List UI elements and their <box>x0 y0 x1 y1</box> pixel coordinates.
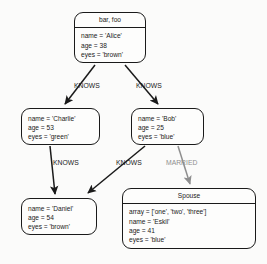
property-row: name = 'Eskil' <box>129 217 255 226</box>
property-row: name = 'Charlie' <box>28 114 99 123</box>
node-eskil-properties: array = ['one', 'two', 'three'] name = '… <box>123 204 255 247</box>
node-alice[interactable]: bar, foo name = 'Alice' age = 38 eyes = … <box>74 12 146 63</box>
property-row: name = 'Bob' <box>138 114 203 123</box>
property-row: eyes = 'brown' <box>28 222 96 231</box>
property-row: name = 'Alice' <box>81 31 145 40</box>
property-row: eyes = 'blue' <box>129 235 255 244</box>
property-row: eyes = 'brown' <box>81 50 145 59</box>
property-row: eyes = 'green' <box>28 132 99 141</box>
property-row: age = 54 <box>28 213 96 222</box>
edge-bob-knows-daniel <box>88 146 145 193</box>
property-row: name = 'Daniel' <box>28 204 96 213</box>
property-row: age = 41 <box>129 226 255 235</box>
edge-label-charlie-knows-daniel: KNOWS <box>53 160 79 167</box>
property-row: age = 25 <box>138 123 203 132</box>
property-row: age = 53 <box>28 123 99 132</box>
node-daniel-properties: name = 'Daniel' age = 54 eyes = 'brown' <box>22 199 96 234</box>
edge-charlie-knows-daniel <box>50 146 55 194</box>
node-bob[interactable]: name = 'Bob' age = 25 eyes = 'blue' <box>131 108 204 145</box>
node-alice-header: bar, foo <box>75 13 145 28</box>
node-alice-properties: name = 'Alice' age = 38 eyes = 'brown' <box>75 28 145 62</box>
edge-label-bob-knows-daniel: KNOWS <box>116 160 142 167</box>
node-charlie[interactable]: name = 'Charlie' age = 53 eyes = 'green' <box>21 108 100 145</box>
edge-label-bob-married-eskil: MARRIED <box>166 160 197 167</box>
graph-diagram-canvas: bar, foo name = 'Alice' age = 38 eyes = … <box>0 0 267 264</box>
node-daniel[interactable]: name = 'Daniel' age = 54 eyes = 'brown' <box>21 198 97 235</box>
node-eskil[interactable]: Spouse array = ['one', 'two', 'three'] n… <box>122 188 256 249</box>
node-eskil-header: Spouse <box>123 189 255 204</box>
property-row: array = ['one', 'two', 'three'] <box>129 207 255 216</box>
property-row: age = 38 <box>81 41 145 50</box>
edge-label-alice-knows-bob: KNOWS <box>136 83 162 90</box>
node-charlie-properties: name = 'Charlie' age = 53 eyes = 'green' <box>22 109 99 144</box>
property-row: eyes = 'blue' <box>138 132 203 141</box>
edge-label-alice-knows-charlie: KNOWS <box>74 83 100 90</box>
node-bob-properties: name = 'Bob' age = 25 eyes = 'blue' <box>132 109 203 144</box>
